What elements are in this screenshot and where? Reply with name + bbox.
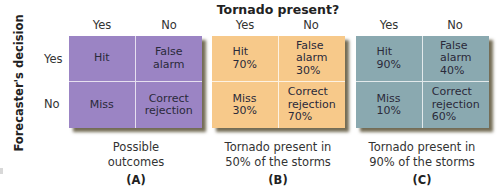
cell-hit: Hit 70%: [212, 36, 279, 82]
panel-a-letter: (A): [66, 173, 206, 187]
col-header-no-c: No: [422, 18, 488, 32]
panel-c-matrix: Hit 90% False alarm 40% Miss 10% Correct…: [356, 36, 489, 128]
panel-a-matrix: Hit False alarm Miss Correct rejection: [69, 36, 202, 128]
cell-correct-rejection: Correct rejection 60%: [423, 82, 490, 128]
cropped-edge-artifact: [0, 168, 3, 174]
cell-false-alarm-text: False alarm 30%: [296, 40, 328, 78]
cell-false-alarm-text: False alarm 40%: [440, 40, 472, 78]
col-header-yes-a: Yes: [69, 18, 135, 32]
row-header-yes: Yes: [44, 52, 63, 66]
col-header-no-a: No: [136, 18, 202, 32]
cell-miss: Miss 30%: [212, 82, 279, 128]
row-header-no: No: [44, 97, 60, 111]
diagram-title: Tornado present?: [200, 2, 356, 17]
panel-c-caption: Tornado present in 90% of the storms: [352, 140, 492, 169]
row-axis-label: Forecaster's decision: [2, 40, 36, 126]
col-header-no-b: No: [278, 18, 344, 32]
cell-miss-text: Miss 10%: [377, 93, 401, 118]
cell-correct-rejection-text: Correct rejection 60%: [432, 86, 480, 124]
cell-hit-text: Hit 70%: [233, 46, 257, 71]
cell-miss: Miss: [69, 82, 136, 128]
panel-a-caption: Possible outcomes: [66, 140, 206, 169]
cell-hit-text: Hit 90%: [377, 46, 401, 71]
panel-b-caption: Tornado present in 50% of the storms: [208, 140, 348, 169]
cell-correct-rejection-text: Correct rejection 70%: [288, 86, 336, 124]
cell-hit: Hit: [69, 36, 136, 82]
cell-false-alarm-text: False alarm: [153, 46, 185, 71]
panel-c-letter: (C): [352, 173, 492, 187]
caption-line: 50% of the storms: [208, 155, 348, 170]
cell-false-alarm: False alarm: [136, 36, 203, 82]
caption-line: Tornado present in: [208, 140, 348, 155]
caption-line: Tornado present in: [352, 140, 492, 155]
caption-line: outcomes: [66, 155, 206, 170]
cell-correct-rejection: Correct rejection 70%: [279, 82, 346, 128]
panel-b-matrix: Hit 70% False alarm 30% Miss 30% Correct…: [212, 36, 345, 128]
cell-correct-rejection: Correct rejection: [136, 82, 203, 128]
caption-line: 90% of the storms: [352, 155, 492, 170]
cell-miss: Miss 10%: [356, 82, 423, 128]
col-header-yes-b: Yes: [212, 18, 278, 32]
cell-miss-text: Miss 30%: [233, 93, 257, 118]
cell-hit-text: Hit: [94, 52, 110, 65]
cell-false-alarm: False alarm 40%: [423, 36, 490, 82]
col-header-yes-c: Yes: [356, 18, 422, 32]
caption-line: Possible: [66, 140, 206, 155]
panel-b-letter: (B): [208, 173, 348, 187]
row-axis-label-text: Forecaster's decision: [13, 14, 26, 151]
cell-hit: Hit 90%: [356, 36, 423, 82]
cell-miss-text: Miss: [90, 99, 114, 112]
cell-correct-rejection-text: Correct rejection: [145, 93, 193, 118]
cell-false-alarm: False alarm 30%: [279, 36, 346, 82]
